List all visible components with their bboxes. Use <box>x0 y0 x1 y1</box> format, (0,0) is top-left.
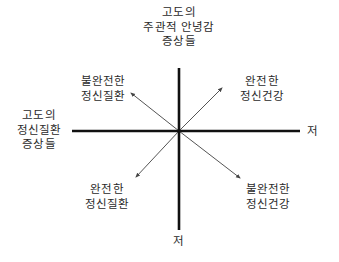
label-line: 고도의 <box>17 108 62 123</box>
arrow-upper-left <box>131 93 179 131</box>
label-line: 정신질환 <box>85 197 130 212</box>
quadrant-lower-right-label: 불완전한 정신건강 <box>246 182 291 211</box>
origin-point <box>177 129 181 133</box>
arrow-lower-left <box>136 131 179 177</box>
label-line: 불완전한 <box>246 182 291 197</box>
label-line: 정신질환 <box>81 89 126 104</box>
horizontal-axis-right-label: 저 <box>307 124 318 139</box>
horizontal-axis-left-label: 고도의 정신질환 증상들 <box>17 108 62 152</box>
label-line: 완전한 <box>240 74 285 89</box>
quadrant-upper-left-label: 불완전한 정신질환 <box>81 74 126 103</box>
two-continua-model-diagram: 고도의 주관적 안녕감 증상들 고도의 정신질환 증상들 저 저 불완전한 정신… <box>0 0 339 262</box>
vertical-axis-bottom-label: 저 <box>173 234 184 249</box>
label-line: 저 <box>307 124 318 139</box>
label-line: 증상들 <box>143 34 214 49</box>
label-line: 정신질환 <box>17 123 62 138</box>
label-line: 저 <box>173 234 184 249</box>
arrow-upper-right <box>179 88 222 131</box>
quadrant-upper-right-label: 완전한 정신건강 <box>240 74 285 103</box>
label-line: 정신건강 <box>240 89 285 104</box>
arrow-lower-right <box>179 131 240 178</box>
label-line: 완전한 <box>85 182 130 197</box>
label-line: 주관적 안녕감 <box>143 20 214 35</box>
label-line: 증상들 <box>17 137 62 152</box>
label-line: 정신건강 <box>246 197 291 212</box>
quadrant-lower-left-label: 완전한 정신질환 <box>85 182 130 211</box>
label-line: 불완전한 <box>81 74 126 89</box>
label-line: 고도의 <box>143 5 214 20</box>
vertical-axis-top-label: 고도의 주관적 안녕감 증상들 <box>143 5 214 49</box>
